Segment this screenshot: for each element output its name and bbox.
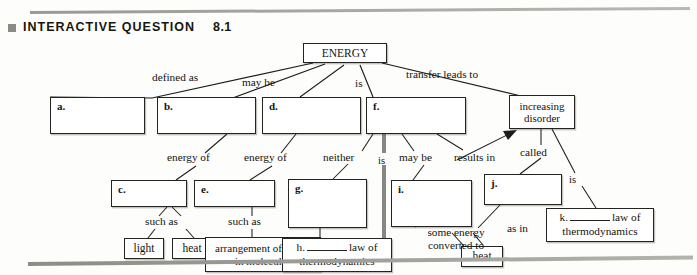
edge-label-energy-of-1: energy of: [167, 152, 210, 164]
node-h-line1: h.law of: [296, 241, 377, 255]
node-h-letter: h.: [296, 241, 304, 253]
node-b-letter: b.: [164, 100, 173, 112]
square-bullet-icon: [8, 24, 16, 32]
node-k-law-word: law of: [612, 211, 641, 223]
page-root: INTERACTIVE QUESTION 8.1: [0, 0, 697, 275]
edge-label-may-be-2: may be: [399, 152, 432, 164]
edge-label-such-as-2: such as: [228, 216, 261, 228]
edge-label-such-as-1: such as: [145, 216, 178, 228]
section-title: INTERACTIVE QUESTION: [23, 20, 195, 34]
edge-label-is-2: is: [378, 155, 385, 166]
node-k-blank-line[interactable]: [570, 211, 610, 221]
node-g[interactable]: g.: [288, 179, 367, 228]
edge-label-defined-as: defined as: [152, 72, 198, 84]
section-number: 8.1: [213, 20, 232, 34]
edge-label-results-in: results in: [454, 152, 495, 164]
node-b[interactable]: b.: [157, 97, 256, 134]
node-heat-1-label: heat: [182, 242, 201, 255]
edge-label-transfer-leads-to: transfer leads to: [406, 69, 478, 81]
edge-label-is-3: is: [569, 174, 576, 185]
node-f-letter: f.: [373, 100, 379, 112]
node-a[interactable]: a.: [50, 97, 145, 134]
node-e-letter: e.: [201, 183, 209, 195]
node-k-line2: thermodynamics: [562, 225, 637, 239]
concept-map: ENERGY a. b. d. f. increasing disorder c…: [0, 33, 697, 258]
node-d-letter: d.: [269, 100, 278, 112]
node-energy[interactable]: ENERGY: [303, 43, 387, 63]
node-h-law-word: law of: [349, 241, 378, 253]
node-e[interactable]: e.: [194, 180, 275, 207]
edge-label-energy-of-2: energy of: [244, 152, 287, 164]
node-k-letter: k.: [559, 211, 567, 223]
node-increasing-disorder[interactable]: increasing disorder: [509, 95, 575, 129]
top-rule: [30, 7, 690, 14]
node-f[interactable]: f.: [366, 97, 466, 134]
edge-label-as-in: as in: [507, 223, 528, 235]
node-a-letter: a.: [57, 100, 65, 112]
edge-label-neither: neither: [323, 152, 354, 164]
node-h-law[interactable]: h.law of thermodynamics: [282, 238, 392, 272]
node-light[interactable]: light: [124, 238, 164, 259]
node-j[interactable]: j.: [484, 174, 562, 205]
section-header: INTERACTIVE QUESTION 8.1: [8, 20, 232, 34]
node-g-letter: g.: [295, 182, 303, 194]
node-increasing-disorder-label: increasing disorder: [510, 100, 574, 125]
node-k-law[interactable]: k.law of thermodynamics: [546, 208, 654, 242]
node-h-blank-line[interactable]: [307, 241, 347, 251]
node-c[interactable]: c.: [111, 180, 187, 207]
node-c-letter: c.: [118, 183, 126, 195]
node-energy-label: ENERGY: [322, 47, 369, 60]
node-k-line1: k.law of: [559, 211, 640, 225]
node-d[interactable]: d.: [262, 97, 361, 134]
node-i-letter: i.: [398, 183, 404, 195]
node-light-label: light: [133, 242, 154, 255]
edge-label-is-1: is: [355, 78, 363, 90]
edge-label-some-energy-converted-to: some energy converted to: [413, 226, 499, 252]
node-j-letter: j.: [491, 177, 497, 189]
edge-label-called: called: [520, 147, 547, 159]
edge-label-may-be-1: may be: [242, 77, 275, 89]
node-i[interactable]: i.: [391, 180, 472, 227]
